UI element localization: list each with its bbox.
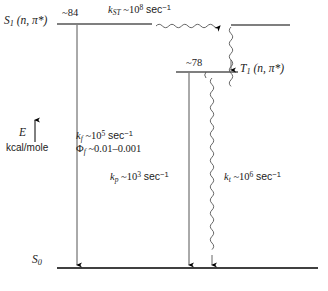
kp-units-exp: −1 xyxy=(160,170,169,179)
intersystem-crossing-arrow xyxy=(156,24,220,27)
kp-units: sec xyxy=(144,170,160,182)
rate-label-kp: kp ~103 sec−1 xyxy=(110,170,169,184)
energy-axis-units: kcal/mole xyxy=(6,142,48,153)
rate-label-kst: kST ~108 sec−1 xyxy=(108,3,171,17)
level-label-s1: S1 (n, π*) xyxy=(4,14,47,28)
kf-value: ~10 xyxy=(85,130,101,141)
kf-exp: 5 xyxy=(102,129,106,138)
level-label-t1: T1 (n, π*) xyxy=(240,62,284,76)
kt-exp: 6 xyxy=(250,170,254,179)
kst-sub: ST xyxy=(113,8,121,17)
kst-units: sec xyxy=(146,3,162,15)
level-energy-t1: ~78 xyxy=(186,57,202,68)
level-label-s1-sub: 1 xyxy=(10,19,14,28)
kt-sub: t xyxy=(229,175,231,184)
rate-label-kt: kt ~106 sec−1 xyxy=(224,170,281,184)
level-label-s0: S0 xyxy=(32,253,42,267)
kt-units-exp: −1 xyxy=(272,170,281,179)
kst-exp: 8 xyxy=(139,3,143,12)
quantum-yield-label-phif: Φf ~0.01–0.001 xyxy=(76,143,141,156)
kp-exp: 3 xyxy=(137,170,141,179)
phif-sub: f xyxy=(84,147,86,156)
phif-symbol: Φ xyxy=(76,143,84,154)
kp-sub: p xyxy=(115,175,119,184)
level-label-t1-sub: 1 xyxy=(246,67,250,76)
t1-wave-stub xyxy=(205,72,206,78)
rate-label-kf: kf ~105 sec−1 xyxy=(76,129,133,143)
kst-units-exp: −1 xyxy=(162,3,171,12)
level-label-t1-config: (n, π*) xyxy=(253,62,284,74)
energy-level-diagram xyxy=(0,0,328,291)
kf-units: sec xyxy=(108,129,124,141)
kp-value: ~10 xyxy=(121,171,137,182)
kf-units-exp: −1 xyxy=(124,129,133,138)
level-label-s0-sub: 0 xyxy=(38,258,42,267)
kf-sub: f xyxy=(81,134,83,143)
level-label-s1-config: (n, π*) xyxy=(17,14,48,26)
phif-value: ~0.01–0.001 xyxy=(88,143,141,154)
kt-value: ~10 xyxy=(233,171,249,182)
kst-value: ~10 xyxy=(123,4,139,15)
level-energy-s1: ~84 xyxy=(62,7,78,18)
isc-vertical-wavy-arrow xyxy=(229,27,232,86)
kt-units: sec xyxy=(256,170,272,182)
triplet-decay-wavy-arrow xyxy=(210,78,213,250)
energy-axis-symbol: E xyxy=(19,126,26,138)
